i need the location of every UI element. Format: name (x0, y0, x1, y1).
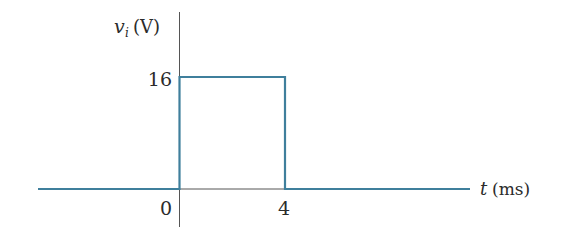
y-axis-label-unit: (V) (133, 16, 160, 37)
x-axis-label-symbol: t (480, 178, 488, 199)
signal-trace (38, 77, 470, 189)
pulse-chart: v i (V) 16 0 4 t (ms) (0, 0, 568, 239)
x-tick-4: 4 (278, 197, 290, 219)
y-axis-label-subscript: i (125, 26, 129, 40)
y-tick-16: 16 (148, 68, 172, 90)
x-tick-0: 0 (160, 197, 172, 219)
x-axis-label-unit: (ms) (492, 179, 530, 199)
y-axis-label-symbol: v (114, 15, 125, 37)
